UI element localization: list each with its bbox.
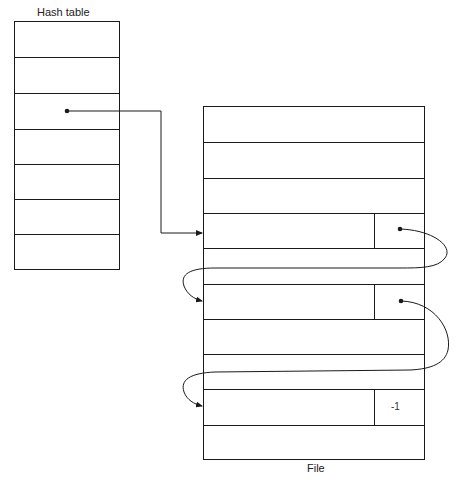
pointer-arrows xyxy=(0,0,462,484)
chain-link-arrow xyxy=(183,299,448,406)
chain-link-arrow xyxy=(183,227,447,301)
hash-pointer-arrow xyxy=(65,109,202,233)
